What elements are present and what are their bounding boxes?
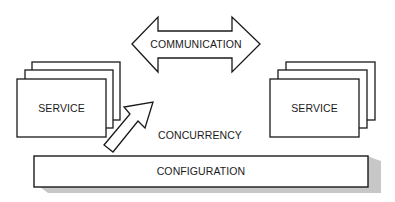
communication-label: COMMUNICATION xyxy=(146,38,246,50)
left-service-stack xyxy=(17,62,120,137)
left-service-label: SERVICE xyxy=(17,102,106,114)
configuration-label: CONFIGURATION xyxy=(34,165,368,177)
concurrency-label: CONCURRENCY xyxy=(155,129,245,141)
right-service-stack xyxy=(270,62,375,137)
right-service-label: SERVICE xyxy=(270,102,359,114)
